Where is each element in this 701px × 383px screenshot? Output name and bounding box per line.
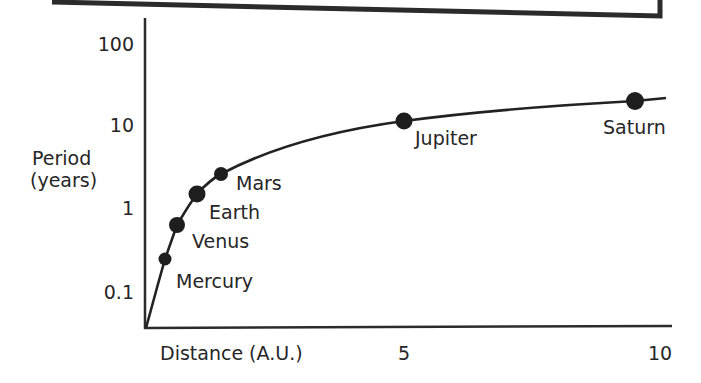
y-tick-100: 100 xyxy=(74,35,134,54)
label-mars: Mars xyxy=(236,174,282,193)
point-earth xyxy=(189,186,206,203)
point-mercury xyxy=(159,253,172,266)
point-mars xyxy=(214,167,228,181)
y-tick-0-1: 0.1 xyxy=(74,283,134,302)
label-earth: Earth xyxy=(209,203,260,222)
point-jupiter xyxy=(396,113,413,130)
label-venus: Venus xyxy=(192,232,249,251)
point-saturn xyxy=(626,92,644,110)
y-axis-label-line1: Period xyxy=(32,149,91,168)
y-tick-10: 10 xyxy=(74,116,134,135)
x-tick-10: 10 xyxy=(640,344,680,363)
x-tick-5: 5 xyxy=(384,344,424,363)
label-jupiter: Jupiter xyxy=(415,129,477,148)
point-venus xyxy=(169,217,185,233)
label-mercury: Mercury xyxy=(176,272,253,291)
label-saturn: Saturn xyxy=(603,118,666,137)
y-tick-1: 1 xyxy=(74,199,134,218)
chart-canvas xyxy=(0,0,701,383)
x-axis xyxy=(144,326,672,328)
x-axis-label: Distance (A.U.) xyxy=(160,344,303,363)
top-frame-edge xyxy=(52,0,660,16)
y-axis-label-line2: (years) xyxy=(30,171,97,190)
